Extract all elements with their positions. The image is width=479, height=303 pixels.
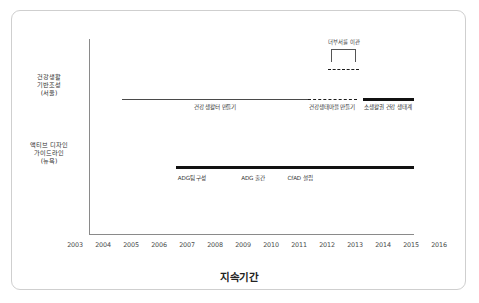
timeline-segment-newyork-1 [176,166,414,169]
x-tick-2013: 2013 [342,241,368,249]
x-tick-2004: 2004 [90,241,116,249]
x-axis-tick-labels: 2003 2004 2005 2006 2007 2008 2009 2010 … [61,241,441,253]
x-tick-2006: 2006 [146,241,172,249]
figure-frame: 건강생활 기반조성 (서울) 액티브 디자인 가이드라인 (뉴욕) 더부서를 이… [11,10,466,290]
timeline-segment-seoul-3 [363,98,414,101]
x-tick-2014: 2014 [370,241,396,249]
x-tick-2016: 2016 [426,241,452,249]
y-axis-label-newyork-line-2: 가이드라인 [14,149,84,157]
x-tick-2012: 2012 [314,241,340,249]
x-tick-2009: 2009 [230,241,256,249]
x-tick-2008: 2008 [202,241,228,249]
x-tick-2007: 2007 [174,241,200,249]
y-axis-label-seoul-line-2: 기반조성 [14,81,84,89]
timeline-chart-plot-area: 건강생활 기반조성 (서울) 액티브 디자인 가이드라인 (뉴욕) 더부서를 이… [12,11,467,291]
x-tick-2011: 2011 [286,241,312,249]
x-tick-2010: 2010 [258,241,284,249]
y-axis-label-newyork-line-3: (뉴욕) [14,157,84,165]
timeline-event-newyork-3: CfAD 설립 [245,175,355,182]
x-tick-2003: 2003 [62,241,88,249]
annotation-bracket [331,49,356,62]
x-axis-title: 지속기간 [12,269,467,284]
x-tick-2015: 2015 [398,241,424,249]
timeline-segment-seoul-1 [122,99,308,100]
y-axis-label-newyork-line-1: 액티브 디자인 [14,141,84,149]
y-axis-label-newyork: 액티브 디자인 가이드라인 (뉴욕) [14,141,84,166]
timeline-caption-seoul-1: 건강 생활터 만들기 [155,104,275,111]
annotation-dashed-marker [328,69,359,70]
timeline-segment-seoul-2 [308,99,357,100]
x-tick-2005: 2005 [118,241,144,249]
annotation-label: 더부서를 이관 [308,38,380,46]
y-axis-line [89,39,90,235]
y-axis-label-seoul-line-1: 건강생활 [14,73,84,81]
x-axis-line [89,234,414,235]
timeline-caption-seoul-3: 소생활권 건강 생태계 [328,104,448,111]
y-axis-label-seoul: 건강생활 기반조성 (서울) [14,73,84,98]
y-axis-label-seoul-line-3: (서울) [14,89,84,97]
